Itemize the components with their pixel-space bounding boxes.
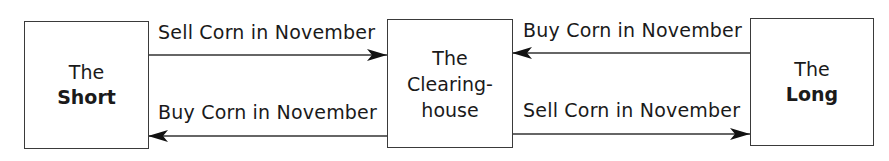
edge-label-short-sell: Sell Corn in November <box>158 21 375 43</box>
node-clearinghouse-line3: house <box>421 97 478 123</box>
node-short: The Short <box>24 21 149 149</box>
node-long-line2: Long <box>786 81 838 107</box>
edge-label-long-sell: Sell Corn in November <box>523 99 740 121</box>
edge-label-short-buy: Buy Corn in November <box>158 101 377 123</box>
node-clearinghouse-line1: The <box>432 45 467 71</box>
node-long-line1: The <box>794 57 829 81</box>
node-clearinghouse: The Clearing- house <box>387 19 513 148</box>
node-long: The Long <box>750 18 874 146</box>
node-short-line1: The <box>69 60 104 84</box>
node-short-line2: Short <box>57 84 116 110</box>
node-clearinghouse-line2: Clearing- <box>407 71 493 97</box>
edge-label-long-buy: Buy Corn in November <box>523 19 742 41</box>
